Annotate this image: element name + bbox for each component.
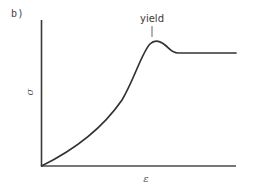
y-axis-label: σ <box>24 87 35 95</box>
yield-label: yield <box>140 13 164 24</box>
stress-strain-diagram: yield σ ε <box>0 0 259 191</box>
x-axis-label: ε <box>143 173 148 184</box>
stress-strain-curve <box>42 41 237 166</box>
